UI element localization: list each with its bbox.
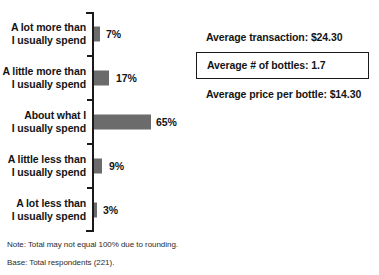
category-label-line2: I usually spend (12, 78, 86, 92)
category-label-line2: I usually spend (12, 210, 86, 224)
footnote-note: Note: Total may not equal 100% due to ro… (7, 239, 237, 250)
chart-axis-tick (87, 143, 93, 145)
bar-segment (94, 27, 100, 42)
stat-average-price-per-bottle: Average price per bottle: $14.30 (196, 85, 372, 104)
bar-segment (94, 115, 151, 130)
stat-average-bottles: Average # of bottles: 1.7 (196, 52, 369, 79)
bar-value-label: 3% (103, 204, 118, 216)
chart-axis-line (92, 12, 94, 232)
footnote-base: Base: Total respondents (221). (7, 257, 237, 268)
chart-row: A lot more than I usually spend 7% (0, 12, 190, 56)
chart-figure: A lot more than I usually spend 7% A lit… (0, 0, 379, 275)
category-label: A lot more than I usually spend (0, 12, 86, 56)
category-label: About what I I usually spend (0, 100, 86, 144)
stat-average-transaction: Average transaction: $24.30 (196, 28, 372, 47)
chart-axis-cap-bottom (86, 230, 94, 232)
bar-segment (94, 71, 109, 86)
summary-stats: Average transaction: $24.30 Average # of… (196, 28, 372, 104)
category-label-line1: About what I (24, 109, 86, 123)
bar-value-label: 9% (109, 160, 124, 172)
chart-row: About what I I usually spend 65% (0, 100, 190, 144)
category-label-line2: I usually spend (12, 34, 86, 48)
bar-value-label: 17% (116, 72, 137, 84)
footnotes: Note: Total may not equal 100% due to ro… (7, 239, 237, 275)
category-label-line2: I usually spend (12, 166, 86, 180)
category-label-line2: I usually spend (12, 122, 86, 136)
category-label-line1: A lot less than (16, 197, 86, 211)
bar-segment (94, 159, 102, 174)
bar-zone: 3% (94, 188, 190, 232)
bar-zone: 7% (94, 12, 190, 56)
category-label-line1: A little more than (2, 65, 86, 79)
chart-axis-tick (87, 187, 93, 189)
bar-zone: 17% (94, 56, 190, 100)
category-label: A lot less than I usually spend (0, 188, 86, 232)
bar-value-label: 65% (156, 116, 177, 128)
chart-axis-cap-top (86, 12, 94, 14)
bar-segment (94, 203, 97, 218)
category-label-line1: A lot more than (11, 21, 86, 35)
bar-chart: A lot more than I usually spend 7% A lit… (0, 0, 190, 232)
category-label: A little more than I usually spend (0, 56, 86, 100)
chart-row: A lot less than I usually spend 3% (0, 188, 190, 232)
bar-zone: 65% (94, 100, 190, 144)
chart-axis-tick (87, 99, 93, 101)
chart-axis-tick (87, 55, 93, 57)
bar-zone: 9% (94, 144, 190, 188)
category-label: A little less than I usually spend (0, 144, 86, 188)
chart-row: A little less than I usually spend 9% (0, 144, 190, 188)
bar-value-label: 7% (106, 28, 121, 40)
chart-row: A little more than I usually spend 17% (0, 56, 190, 100)
category-label-line1: A little less than (8, 153, 86, 167)
